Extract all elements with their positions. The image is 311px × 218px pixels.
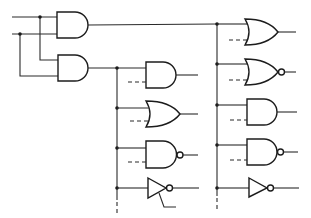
logic-circuit-diagram	[0, 0, 311, 218]
middle-and-gate	[128, 62, 198, 88]
right-bus	[215, 22, 249, 210]
input-a-branch	[40, 17, 58, 60]
junction-dot	[38, 15, 42, 19]
right-and-gate	[230, 99, 297, 125]
and-gate-1-output-wire	[88, 24, 217, 25]
middle-or-gate	[130, 101, 198, 127]
middle-bus	[115, 66, 150, 216]
and-gate-2	[58, 55, 88, 81]
middle-not-gate	[148, 178, 199, 207]
control-line	[159, 193, 176, 207]
input-wires	[12, 15, 58, 76]
right-not-gate	[249, 178, 299, 197]
right-nor-gate	[229, 59, 296, 85]
junction-dot	[18, 32, 22, 36]
and-gate-1	[57, 12, 88, 38]
middle-nand-gate	[128, 141, 198, 168]
right-or-gate	[229, 19, 296, 45]
right-nand-gate	[230, 139, 298, 165]
input-b-branch	[20, 34, 58, 76]
